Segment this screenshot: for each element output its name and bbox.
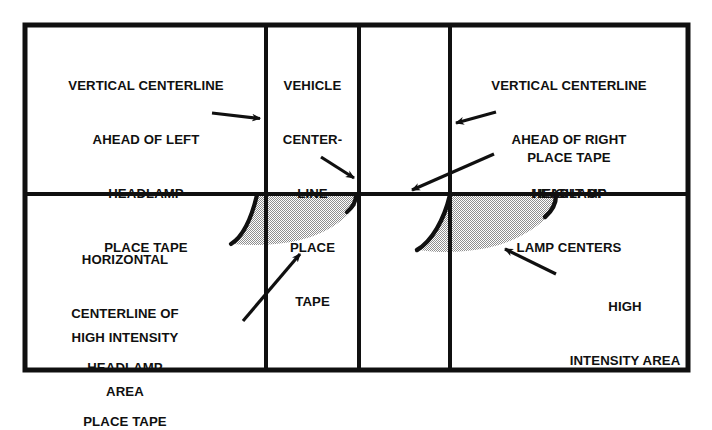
label-line: LINE [267, 185, 358, 203]
label-line: HEADLAMP [28, 185, 264, 203]
label-line: LAMP CENTERS [452, 239, 686, 257]
label-high-intensity-area-left: HIGH INTENSITY AREA [28, 293, 222, 430]
label-line: HIGH [560, 298, 690, 316]
label-line: VERTICAL CENTERLINE [452, 77, 686, 95]
label-vehicle-centerline-place-tape: VEHICLE CENTER- LINE PLACE TAPE [267, 41, 358, 347]
label-line: VEHICLE [267, 77, 358, 95]
label-line: HORIZONTAL [28, 251, 222, 269]
label-line: CENTER- [267, 131, 358, 149]
label-line: TAPE [267, 293, 358, 311]
label-line: AREA [28, 383, 222, 401]
label-line: PLACE [267, 239, 358, 257]
label-high-intensity-area-right: HIGH INTENSITY AREA [560, 262, 690, 406]
label-line: HEIGHT OF [452, 185, 686, 203]
label-line: VERTICAL CENTERLINE [28, 77, 264, 95]
label-line: HIGH INTENSITY [28, 329, 222, 347]
label-line: INTENSITY AREA [560, 352, 690, 370]
label-line: AHEAD OF LEFT [28, 131, 264, 149]
